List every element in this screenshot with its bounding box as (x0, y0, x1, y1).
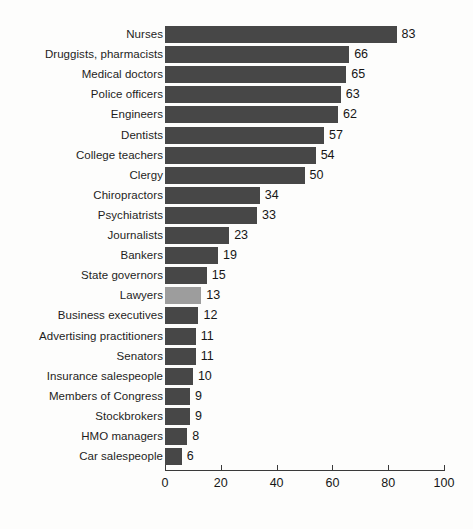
category-label: Police officers (91, 86, 163, 103)
x-axis-tick (221, 465, 222, 470)
bar (165, 207, 257, 224)
category-label: Senators (117, 348, 163, 365)
bar-value-label: 34 (265, 187, 279, 204)
x-axis-tick-label: 60 (325, 476, 339, 490)
bar-row: Members of Congress9 (0, 388, 473, 405)
bar-value-label: 62 (343, 106, 357, 123)
plot-area: Nurses83Druggists, pharmacists66Medical … (0, 0, 473, 529)
x-axis-tick-label: 80 (381, 476, 395, 490)
bar (165, 167, 305, 184)
bar-row: Journalists23 (0, 227, 473, 244)
x-axis-tick-label: 40 (270, 476, 284, 490)
bar-row: Police officers63 (0, 86, 473, 103)
bar (165, 448, 182, 465)
category-label: College teachers (76, 147, 163, 164)
x-axis-tick (388, 465, 389, 470)
bar (165, 428, 187, 445)
bar-row: Stockbrokers9 (0, 408, 473, 425)
x-axis-tick (277, 465, 278, 470)
category-label: Bankers (120, 247, 163, 264)
bar-value-label: 54 (321, 147, 335, 164)
bar-row: Nurses83 (0, 26, 473, 43)
category-label: Insurance salespeople (47, 368, 163, 385)
category-label: Chiropractors (93, 187, 163, 204)
bar (165, 187, 260, 204)
bar-row: Psychiatrists33 (0, 207, 473, 224)
category-label: Clergy (129, 167, 163, 184)
x-axis-tick (165, 465, 166, 470)
category-label: Stockbrokers (95, 408, 163, 425)
bar-value-label: 63 (346, 86, 360, 103)
bar-value-label: 8 (192, 428, 199, 445)
category-label: Psychiatrists (98, 207, 163, 224)
bar-value-label: 33 (262, 207, 276, 224)
bar-row: Chiropractors34 (0, 187, 473, 204)
bar (165, 227, 229, 244)
bar-row: Druggists, pharmacists66 (0, 46, 473, 63)
bar-row: College teachers54 (0, 147, 473, 164)
bar (165, 247, 218, 264)
bar-value-label: 11 (201, 328, 214, 345)
category-label: Dentists (121, 127, 163, 144)
category-label: Druggists, pharmacists (45, 46, 163, 63)
category-label: Journalists (107, 227, 163, 244)
bar (165, 267, 207, 284)
bar-value-label: 65 (351, 66, 365, 83)
bar-chart: Nurses83Druggists, pharmacists66Medical … (0, 0, 473, 529)
bar-value-label: 66 (354, 46, 368, 63)
bar-row: Insurance salespeople10 (0, 368, 473, 385)
x-axis-tick-label: 100 (434, 476, 455, 490)
bar (165, 46, 349, 63)
x-axis-line (165, 470, 445, 471)
bar-row: Lawyers13 (0, 287, 473, 304)
bar (165, 147, 316, 164)
category-label: State governors (81, 267, 163, 284)
bar-value-label: 6 (187, 448, 194, 465)
bar (165, 127, 324, 144)
bar-value-label: 12 (203, 307, 217, 324)
bar (165, 26, 397, 43)
category-label: Business executives (58, 307, 163, 324)
bar (165, 287, 201, 304)
category-label: Car salespeople (79, 448, 163, 465)
bar-value-label: 9 (195, 408, 202, 425)
bar-value-label: 15 (212, 267, 226, 284)
category-label: Lawyers (120, 287, 163, 304)
x-axis-tick (332, 465, 333, 470)
bar-value-label: 57 (329, 127, 343, 144)
category-label: Engineers (111, 106, 163, 123)
category-label: Members of Congress (49, 388, 163, 405)
bar-value-label: 11 (201, 348, 214, 365)
category-label: Advertising practitioners (39, 328, 163, 345)
bar-value-label: 19 (223, 247, 237, 264)
bar-row: Medical doctors65 (0, 66, 473, 83)
bar-row: Dentists57 (0, 127, 473, 144)
bar (165, 106, 338, 123)
bar-value-label: 23 (234, 227, 248, 244)
bar-value-label: 50 (310, 167, 324, 184)
bar (165, 408, 190, 425)
bar-value-label: 10 (198, 368, 212, 385)
bar-row: Car salespeople6 (0, 448, 473, 465)
bar-row: HMO managers8 (0, 428, 473, 445)
bar-row: Engineers62 (0, 106, 473, 123)
bar-row: Business executives12 (0, 307, 473, 324)
category-label: Nurses (126, 26, 163, 43)
x-axis-tick-label: 20 (214, 476, 228, 490)
bar (165, 307, 198, 324)
bar-row: Bankers19 (0, 247, 473, 264)
bar (165, 86, 341, 103)
bar-row: State governors15 (0, 267, 473, 284)
bar (165, 66, 346, 83)
bar-value-label: 13 (206, 287, 220, 304)
x-axis-tick-label: 0 (162, 476, 169, 490)
bar-value-label: 83 (402, 26, 416, 43)
bar-row: Clergy50 (0, 167, 473, 184)
category-label: HMO managers (81, 428, 163, 445)
bar (165, 388, 190, 405)
bar (165, 368, 193, 385)
category-label: Medical doctors (82, 66, 163, 83)
bar-row: Senators11 (0, 348, 473, 365)
bar (165, 328, 196, 345)
bar (165, 348, 196, 365)
